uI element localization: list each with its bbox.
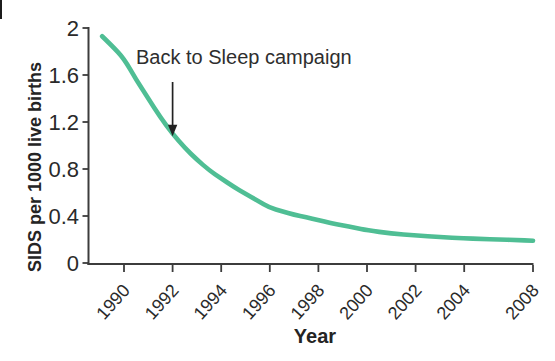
sids-rate-figure: 00.40.81.21.6219901992199419961998200020… — [0, 0, 555, 361]
y-tick-label: 0.8 — [48, 157, 79, 182]
x-tick-label: 2008 — [501, 280, 543, 323]
x-tick-label: 2004 — [433, 280, 475, 323]
x-tick-label: 2002 — [384, 280, 426, 323]
x-tick-label: 1990 — [92, 280, 134, 323]
y-axis-title: SIDS per 1000 live births — [25, 62, 46, 272]
x-tick-label: 1992 — [141, 280, 183, 323]
y-tick-label: 0 — [67, 251, 79, 276]
x-tick-label: 2000 — [335, 280, 377, 323]
x-tick-label: 1998 — [287, 280, 329, 323]
y-tick-label: 1.6 — [48, 63, 79, 88]
y-tick-label: 1.2 — [48, 110, 79, 135]
x-tick-label: 1996 — [238, 280, 280, 323]
y-tick-label: 0.4 — [48, 204, 79, 229]
x-tick-label: 1994 — [190, 280, 232, 323]
scan-edge-artifact — [0, 0, 2, 19]
x-axis-title: Year — [294, 325, 336, 348]
annotation-back-to-sleep: Back to Sleep campaign — [136, 46, 352, 68]
y-tick-label: 2 — [67, 16, 79, 41]
